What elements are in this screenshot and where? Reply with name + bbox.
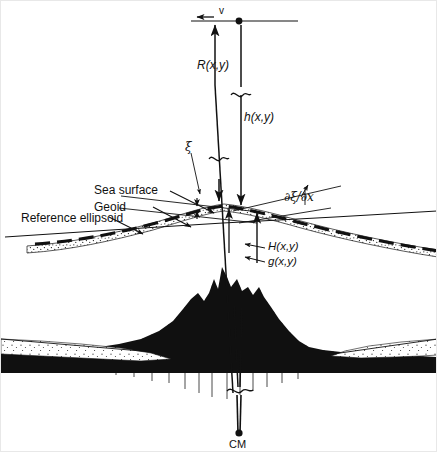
geoid-height-label: H(x,y) — [268, 241, 299, 253]
sea-surface-topography-label: ξ — [185, 141, 192, 153]
break-mark-upper — [231, 93, 251, 105]
reference-ellipsoid-label: Reference ellipsoid — [21, 212, 123, 224]
cm-point — [235, 429, 242, 436]
center-of-mass-label: CM — [229, 439, 246, 450]
satellite-body — [236, 18, 243, 25]
g-leader — [245, 257, 265, 262]
seafloor-bathymetry — [1, 267, 437, 399]
satellite-radius-label: R(x,y) — [197, 59, 229, 71]
xi-leader-line — [191, 153, 200, 194]
altimetry-diagram: v R(x,y) h(x,y) ξ ∂ξ/∂x Sea surface Geoi… — [0, 0, 437, 452]
gravity-label: g(x,y) — [268, 256, 297, 268]
slope-label: ∂ξ/∂x — [284, 191, 314, 203]
sea-surface-label: Sea surface — [94, 184, 158, 196]
H-leader — [245, 244, 265, 248]
altimeter-height-label: h(x,y) — [244, 111, 274, 123]
velocity-label: v — [219, 6, 224, 16]
